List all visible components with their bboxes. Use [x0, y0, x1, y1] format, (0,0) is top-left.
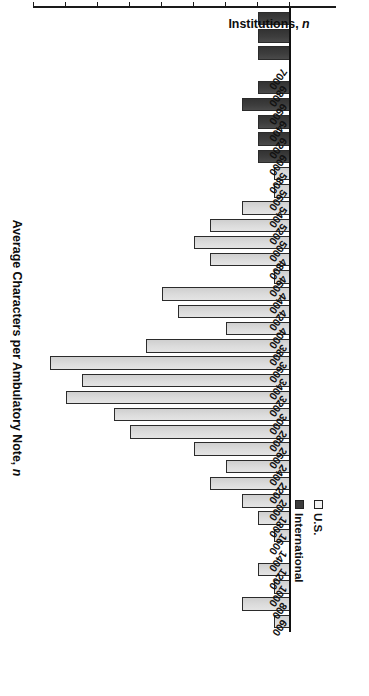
bar-row: [33, 563, 290, 576]
bar-us: [274, 167, 290, 180]
bars-area: [33, 10, 290, 630]
bar-international: [258, 115, 290, 128]
bar-us: [226, 460, 290, 473]
value-axis-tick: [257, 2, 258, 8]
plot-stage: U.S. International 0246810121416 6008001…: [0, 0, 369, 696]
bar-row: [33, 322, 290, 335]
value-axis-title-italic: n: [302, 17, 310, 31]
bar-row: [33, 29, 290, 42]
bar-international: [258, 81, 290, 94]
bar-us: [258, 511, 290, 524]
bar-us: [66, 391, 290, 404]
bar-us: [162, 287, 290, 300]
legend-swatch-international-icon: [295, 500, 304, 509]
bar-row: [33, 132, 290, 145]
legend-label-international: International: [293, 513, 306, 583]
bar-row: [33, 529, 290, 542]
bar-us: [274, 184, 290, 197]
bar-us: [194, 236, 290, 249]
bar-international: [258, 46, 290, 59]
bar-international: [258, 150, 290, 163]
category-axis-line: [289, 8, 291, 632]
value-axis-line: 0246810121416: [33, 6, 336, 8]
bar-row: [33, 64, 290, 77]
bar-us: [178, 305, 290, 318]
bar-row: [33, 494, 290, 507]
bar-row: [33, 287, 290, 300]
bar-row: [33, 597, 290, 610]
value-axis-tick: [193, 2, 194, 8]
value-axis-tick: [97, 2, 98, 8]
bar-row: [33, 356, 290, 369]
legend-swatch-us-icon: [314, 500, 323, 509]
bar-row: [33, 425, 290, 438]
legend-label-us: U.S.: [312, 513, 325, 536]
bar-us: [242, 201, 290, 214]
bar-international: [258, 29, 290, 42]
value-axis-tick: [225, 2, 226, 8]
bar-us: [242, 494, 290, 507]
bar-row: [33, 339, 290, 352]
bar-international: [242, 98, 290, 111]
bar-row: [33, 98, 290, 111]
bar-row: [33, 115, 290, 128]
bar-international: [258, 132, 290, 145]
bar-row: [33, 150, 290, 163]
bar-row: [33, 477, 290, 490]
bar-us: [242, 597, 290, 610]
value-axis-title-main: Institutions,: [228, 17, 298, 31]
bar-row: [33, 460, 290, 473]
legend-item-us: U.S.: [312, 500, 325, 536]
bar-us: [210, 219, 290, 232]
bar-us: [274, 270, 290, 283]
value-axis-tick: [33, 2, 34, 8]
value-axis-tick: [289, 2, 290, 8]
bar-row: [33, 615, 290, 628]
bar-row: [33, 442, 290, 455]
bar-row: [33, 236, 290, 249]
bar-us: [194, 442, 290, 455]
category-axis-title-main: Average Characters per Ambulatory Note,: [10, 220, 24, 466]
value-axis-title: Institutions, n: [228, 17, 309, 31]
value-axis-tick: [65, 2, 66, 8]
legend-item-international: International: [293, 500, 306, 583]
bar-us: [210, 477, 290, 490]
bar-row: [33, 391, 290, 404]
figure-root: U.S. International 0246810121416 6008001…: [0, 0, 369, 696]
bar-us: [130, 425, 290, 438]
bar-row: [33, 253, 290, 266]
bar-row: [33, 580, 290, 593]
bar-row: [33, 408, 290, 421]
bar-us: [82, 374, 290, 387]
bar-row: [33, 546, 290, 559]
bar-us: [274, 529, 290, 542]
bar-us: [210, 253, 290, 266]
bar-row: [33, 167, 290, 180]
value-axis-tick: [161, 2, 162, 8]
category-axis-title: Average Characters per Ambulatory Note, …: [10, 220, 24, 477]
bar-us: [274, 580, 290, 593]
category-axis-title-italic: n: [10, 469, 24, 477]
bar-us: [114, 408, 290, 421]
bar-us: [50, 356, 290, 369]
bar-row: [33, 270, 290, 283]
bar-row: [33, 374, 290, 387]
bar-us: [146, 339, 290, 352]
bar-row: [33, 201, 290, 214]
bar-us: [258, 563, 290, 576]
bar-row: [33, 219, 290, 232]
bar-us: [274, 615, 290, 628]
bar-row: [33, 46, 290, 59]
bar-row: [33, 305, 290, 318]
bar-row: [33, 511, 290, 524]
bar-row: [33, 81, 290, 94]
bar-us: [226, 322, 290, 335]
value-axis-tick: [129, 2, 130, 8]
bar-row: [33, 184, 290, 197]
